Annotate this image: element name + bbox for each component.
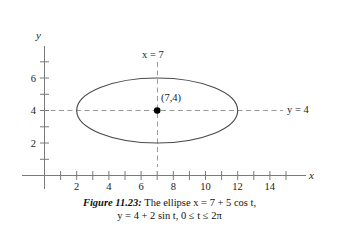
x-tick-label-12: 12 xyxy=(230,182,246,193)
center-point-marker xyxy=(154,107,161,114)
figure-container: y x 2 4 6 8 10 12 14 2 4 6 x = 7 y = 4 (… xyxy=(0,0,339,228)
vertical-line-label: x = 7 xyxy=(142,50,164,61)
y-tick-label-6: 6 xyxy=(26,74,36,85)
figure-caption: Figure 11.23: The ellipse x = 7 + 5 cos … xyxy=(0,196,339,223)
x-axis-label: x xyxy=(309,170,314,181)
caption-line-1: Figure 11.23: The ellipse x = 7 + 5 cos … xyxy=(0,196,339,209)
x-tick-label-4: 4 xyxy=(104,182,114,193)
x-tick-label-10: 10 xyxy=(197,182,213,193)
y-tick-label-4: 4 xyxy=(26,106,36,117)
x-tick-label-6: 6 xyxy=(136,182,146,193)
horizontal-line-label: y = 4 xyxy=(287,105,309,116)
x-tick-label-8: 8 xyxy=(168,182,178,193)
figure-number: Figure 11.23: xyxy=(83,197,142,208)
caption-line-1-text: The ellipse x = 7 + 5 cos t, xyxy=(144,197,256,208)
caption-line-2: y = 4 + 2 sin t, 0 ≤ t ≤ 2π xyxy=(0,209,339,222)
y-axis-label: y xyxy=(36,30,41,41)
x-tick-label-2: 2 xyxy=(72,182,82,193)
x-tick-label-14: 14 xyxy=(262,182,278,193)
center-point-label: (7,4) xyxy=(161,93,181,104)
y-tick-label-2: 2 xyxy=(26,139,36,150)
